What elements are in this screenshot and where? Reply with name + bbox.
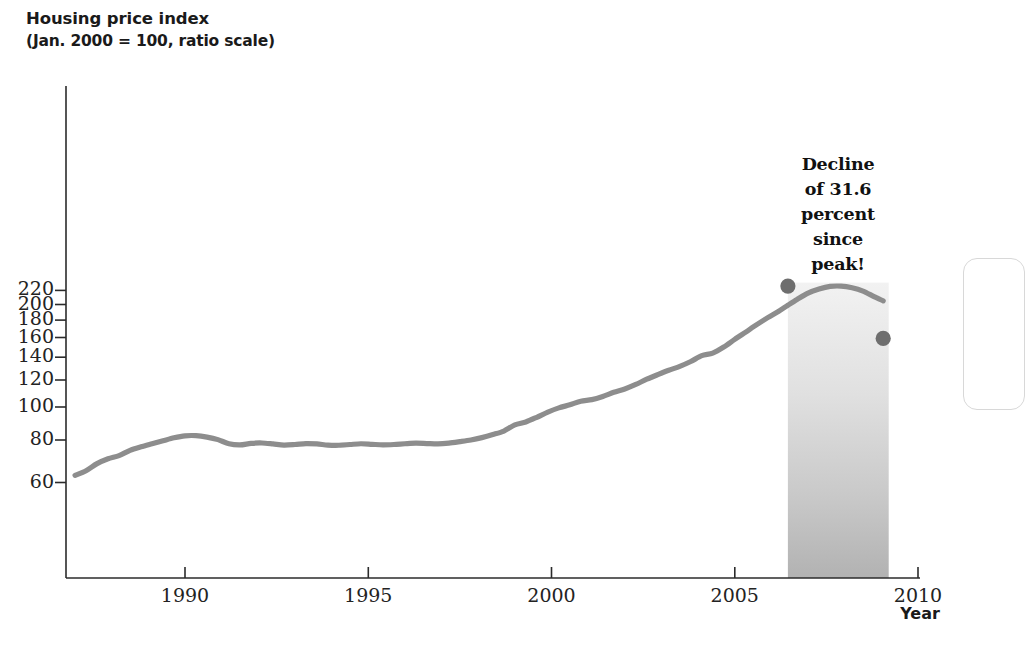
y-tick-label-100: 100 bbox=[0, 394, 54, 416]
y-tick-label-220: 220 bbox=[0, 277, 54, 299]
decline-shaded-band bbox=[788, 283, 889, 578]
annotation-line-2: of 31.6 bbox=[784, 177, 892, 202]
y-tick-label-120: 120 bbox=[0, 367, 54, 389]
page-scan-edge-artifact bbox=[963, 258, 1025, 410]
end-marker bbox=[876, 331, 891, 346]
x-tick-label-2005: 2005 bbox=[695, 584, 775, 606]
annotation-line-1: Decline bbox=[784, 152, 892, 177]
x-tick-label-1995: 1995 bbox=[328, 584, 408, 606]
x-tick-label-2000: 2000 bbox=[512, 584, 592, 606]
y-tick-label-80: 80 bbox=[0, 427, 54, 449]
peak-marker bbox=[780, 279, 795, 294]
x-axis-title: Year bbox=[880, 604, 960, 623]
annotation-line-3: percent bbox=[784, 202, 892, 227]
y-tick-label-60: 60 bbox=[0, 470, 54, 492]
x-tick-label-1990: 1990 bbox=[145, 584, 225, 606]
y-tick-label-140: 140 bbox=[0, 344, 54, 366]
y-axis-ticks bbox=[55, 290, 66, 482]
decline-annotation: Decline of 31.6 percent since peak! bbox=[784, 152, 892, 277]
x-tick-label-2010: 2010 bbox=[878, 584, 958, 606]
annotation-line-5: peak! bbox=[784, 252, 892, 277]
annotation-line-4: since bbox=[784, 227, 892, 252]
housing-index-line bbox=[75, 286, 883, 475]
